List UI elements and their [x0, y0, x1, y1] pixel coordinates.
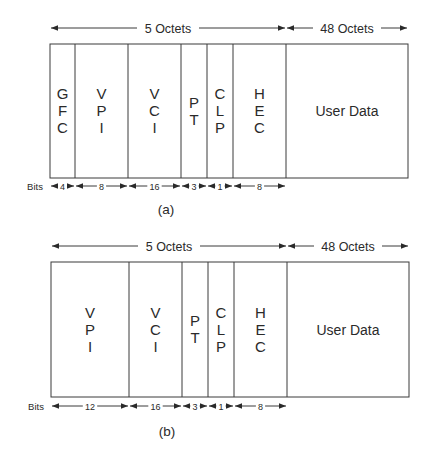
field-letter: G [57, 85, 69, 102]
bits-hec: 8 [234, 182, 285, 192]
bits-hec-label: 8 [258, 402, 263, 412]
field-letter: T [189, 111, 198, 128]
field-letter: P [96, 102, 106, 119]
field-vpi: VPI [96, 85, 106, 136]
bits-pt: 3 [182, 182, 206, 192]
field-letter: P [215, 119, 225, 136]
bits-vci: 16 [130, 402, 181, 412]
header-octets-arrow-label: 5 Octets [146, 240, 193, 254]
field-letter: C [254, 119, 265, 136]
field-letter: P [190, 312, 200, 329]
payload-octets-arrow-label: 48 Octets [321, 240, 375, 254]
field-vci: VCI [150, 304, 161, 355]
field-letter: C [216, 304, 227, 321]
field-pt: PT [190, 312, 200, 346]
atm-cell-diagram: 5 Octets48 OctetsGFC4VPI8VCI16PT3CLP1HEC… [0, 0, 433, 461]
bits-gfc-label: 4 [60, 182, 65, 192]
caption-b: (b) [159, 424, 176, 439]
caption-a: (a) [158, 202, 175, 217]
bits-vci-label: 16 [149, 182, 159, 192]
field-pt: PT [189, 94, 199, 128]
field-letter: I [99, 119, 103, 136]
bits-pt-label: 3 [191, 182, 196, 192]
field-letter: V [96, 85, 106, 102]
field-clp: CLP [215, 85, 226, 136]
bits-clp: 1 [208, 182, 232, 192]
header-octets-arrow: 5 Octets [52, 240, 286, 254]
field-letter: I [153, 338, 157, 355]
payload-octets-arrow-label: 48 Octets [320, 22, 374, 36]
user-data-label: User Data [316, 322, 379, 338]
header-octets-arrow-label: 5 Octets [145, 22, 192, 36]
bits-hec-label: 8 [257, 182, 262, 192]
field-hec: HEC [254, 85, 265, 136]
bits-vpi-label: 12 [85, 402, 95, 412]
diagram-b: 5 Octets48 OctetsVPI12VCI16PT3CLP1HEC8Us… [28, 240, 409, 440]
field-hec: HEC [255, 304, 266, 355]
payload-octets-arrow: 48 Octets [287, 22, 407, 36]
field-vpi: VPI [85, 304, 95, 355]
field-letter: P [189, 94, 199, 111]
bits-vpi-label: 8 [99, 182, 104, 192]
bits-clp: 1 [209, 402, 233, 412]
bits-pt: 3 [183, 402, 207, 412]
field-letter: P [216, 338, 226, 355]
bits-vci-label: 16 [150, 402, 160, 412]
field-letter: P [85, 321, 95, 338]
bits-hec: 8 [235, 402, 286, 412]
field-letter: E [254, 102, 264, 119]
field-letter: C [149, 102, 160, 119]
bits-clp-label: 1 [217, 182, 222, 192]
field-letter: C [255, 338, 266, 355]
field-letter: L [217, 321, 225, 338]
bits-gfc: 4 [51, 182, 74, 192]
field-letter: V [85, 304, 95, 321]
header-octets-arrow: 5 Octets [51, 22, 285, 36]
bits-vpi: 12 [52, 402, 128, 412]
bits-clp-label: 1 [218, 402, 223, 412]
bits-label: Bits [27, 181, 43, 192]
field-letter: F [58, 102, 67, 119]
field-letter: L [216, 102, 224, 119]
field-vci: VCI [149, 85, 160, 136]
payload-octets-arrow: 48 Octets [288, 240, 408, 254]
diagram-a: 5 Octets48 OctetsGFC4VPI8VCI16PT3CLP1HEC… [27, 22, 408, 218]
field-letter: V [150, 304, 160, 321]
field-letter: C [215, 85, 226, 102]
field-letter: E [255, 321, 265, 338]
field-letter: H [254, 85, 265, 102]
user-data-label: User Data [315, 103, 378, 119]
field-clp: CLP [216, 304, 227, 355]
field-letter: C [57, 119, 68, 136]
field-letter: C [150, 321, 161, 338]
field-letter: I [152, 119, 156, 136]
field-gfc: GFC [57, 85, 69, 136]
field-letter: T [190, 329, 199, 346]
bits-vpi: 8 [76, 182, 127, 192]
field-letter: H [255, 304, 266, 321]
field-letter: V [149, 85, 159, 102]
bits-vci: 16 [129, 182, 180, 192]
field-letter: I [88, 338, 92, 355]
bits-label: Bits [28, 401, 44, 412]
bits-pt-label: 3 [192, 402, 197, 412]
